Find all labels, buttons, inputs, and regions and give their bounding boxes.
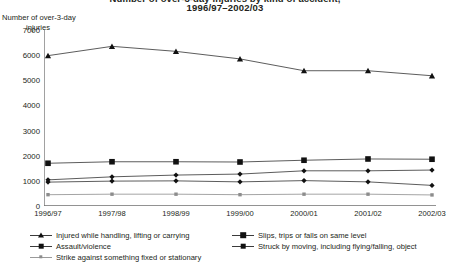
series-line [45,156,435,166]
data-point [429,156,435,162]
data-point [301,178,306,183]
legend-label: Injured while handling, lifting or carry… [56,231,189,240]
legend-item[interactable]: Struck by moving, including flying/falli… [232,242,417,251]
legend-item[interactable]: Assault/violence [30,242,111,251]
y-tick-label: 2000 [23,151,40,160]
legend-label: Strike against something fixed or statio… [56,253,201,262]
x-tick-label: 2000/01 [290,209,317,218]
series-line [45,178,434,188]
chart-canvas [44,30,436,206]
data-point [45,160,51,166]
y-tick-label: 6000 [23,51,40,60]
x-tick-label: 1998/99 [162,209,189,218]
plot-area: 010002000300040005000600070001996/971997… [44,30,436,206]
series-line [46,192,433,196]
legend-label: Struck by moving, including flying/falli… [258,242,417,251]
legend-marker-icon [232,231,254,240]
data-point [238,193,241,196]
data-point [301,157,307,163]
data-point [237,159,243,165]
x-tick-label: 2001/02 [354,209,381,218]
data-point [173,172,178,177]
data-point [174,192,177,195]
data-point [237,179,242,184]
data-point [302,192,305,195]
data-point [46,193,49,196]
data-point [429,183,434,188]
x-tick-label: 2002/03 [418,209,445,218]
legend-label: Assault/violence [56,242,111,251]
x-tick-label: 1999/00 [226,209,253,218]
legend-item[interactable]: Strike against something fixed or statio… [30,253,201,262]
x-tick-label: 1996/97 [34,209,61,218]
series-line [45,43,435,78]
y-tick-label: 4000 [23,101,40,110]
x-tick-label: 1997/98 [98,209,125,218]
data-point [301,168,306,173]
legend-marker-icon [30,253,52,262]
legend-item[interactable]: Slips, trips or falls on same level [232,231,366,240]
legend-marker-icon [30,242,52,251]
legend-item[interactable]: Injured while handling, lifting or carry… [30,231,189,240]
data-point [109,159,115,165]
data-point [109,179,114,184]
y-tick-label: 1000 [23,176,40,185]
legend-label: Slips, trips or falls on same level [258,231,366,240]
data-point [173,178,178,183]
y-axis-title-line1: Number of over-3-day [2,13,76,22]
data-point [237,171,242,176]
y-tick-label: 3000 [23,126,40,135]
data-point [365,168,370,173]
data-point [173,159,179,165]
legend-marker-icon [232,242,254,251]
data-point [365,156,371,162]
data-point [430,193,433,196]
y-tick-label: 7000 [23,26,40,35]
y-tick-label: 5000 [23,76,40,85]
chart-legend: Injured while handling, lifting or carry… [0,230,450,269]
data-point [110,192,113,195]
chart-title-line2: 1996/97–2002/03 [0,2,450,13]
data-point [429,167,434,172]
legend-marker-icon [30,231,52,240]
data-point [366,192,369,195]
chart-page: Number of over-3-day injuries by kind of… [0,0,450,269]
data-point [365,179,370,184]
